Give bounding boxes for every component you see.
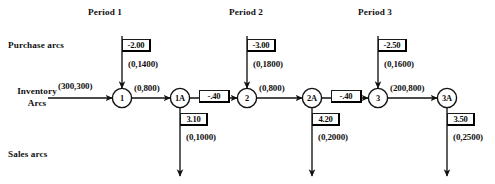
arc-bounds-2-to-2A: (0,800) — [259, 84, 285, 93]
node-label-3: 3 — [368, 94, 388, 103]
row-label-purchase-arcs: Purchase arcs — [8, 41, 64, 51]
bounds-purchase-period-1: (0,1400) — [128, 60, 158, 69]
network-flow-diagram: 1 1A 2 2A 3 3A Period 1 Period 2 Period … — [0, 0, 495, 184]
node-label-1A: 1A — [170, 94, 190, 103]
cost-box-purchase-period-2: -3.00 — [247, 39, 276, 52]
period-title-3: Period 3 — [358, 8, 392, 18]
cost-box-sales-period-2: 4.20 — [312, 113, 340, 126]
arc-bounds-1-to-1A: (0,800) — [134, 84, 160, 93]
bounds-purchase-period-3: (0,1600) — [384, 60, 414, 69]
bounds-purchase-period-2: (0,1800) — [253, 60, 283, 69]
arc-bounds-3-to-3A: (200,800) — [390, 84, 424, 93]
cost-box-purchase-period-3: -2.50 — [378, 39, 407, 52]
period-title-1: Period 1 — [88, 8, 122, 18]
bounds-sales-period-2: (0,2000) — [318, 133, 348, 142]
cost-box-arc-1A-to-2: -.40 — [199, 90, 230, 103]
cost-box-sales-period-3: 3.50 — [447, 113, 475, 126]
node-label-3A: 3A — [437, 94, 457, 103]
cost-box-purchase-period-1: -2.00 — [122, 39, 151, 52]
row-label-sales-arcs: Sales arcs — [8, 150, 47, 160]
cost-box-sales-period-1: 3.10 — [180, 113, 208, 126]
node-label-1: 1 — [112, 94, 132, 103]
row-label-inventory-line1: Inventory — [17, 86, 57, 96]
period-title-2: Period 2 — [229, 8, 263, 18]
cost-box-arc-2A-to-3: -.40 — [331, 90, 362, 103]
node-label-2A: 2A — [302, 94, 322, 103]
row-label-inventory-line2: Arcs — [28, 98, 47, 108]
bounds-sales-period-1: (0,1000) — [186, 133, 216, 142]
arc-bounds-entry: (300,300) — [58, 82, 92, 91]
node-label-2: 2 — [237, 94, 257, 103]
bounds-sales-period-3: (0,2500) — [453, 133, 483, 142]
